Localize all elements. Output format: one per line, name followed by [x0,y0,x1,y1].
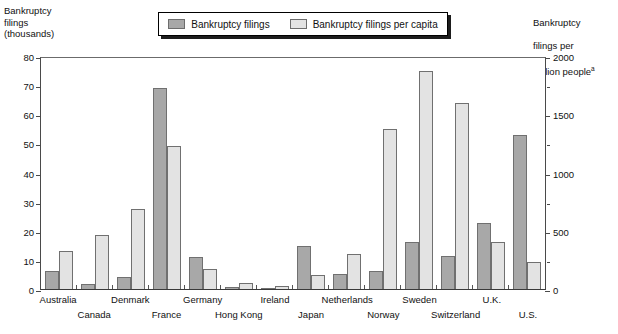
x-axis-label-denmark: Denmark [111,294,150,305]
bar-group [185,58,221,289]
bar-filings [153,88,167,289]
y-tick-right-minor [547,262,551,263]
bar-filings [261,288,275,289]
y-tick-right [545,116,550,117]
y-tick-left [36,175,41,176]
bar-per-capita [239,283,253,289]
x-axis-label-u-k: U.K. [483,294,501,305]
bar-filings [225,287,239,289]
y-tick-label-right: 0 [553,286,558,296]
bar-per-capita [203,269,217,289]
x-axis-label-norway: Norway [367,309,399,320]
bar-group [293,58,329,289]
y-tick-label-left: 50 [23,140,34,150]
bar-group [149,58,185,289]
x-axis-label-u-s: U.S. [519,309,537,320]
legend-item-filings: Bankruptcy filings [168,19,269,30]
bar-filings [405,242,419,289]
y-tick-label-left: 10 [23,257,34,267]
x-axis-label-switzerland: Switzerland [431,309,480,320]
y-tick-label-right: 1500 [553,111,574,121]
y-tick-right-minor [547,87,551,88]
x-axis-label-hong-kong: Hong Kong [215,309,263,320]
y-tick-label-left: 60 [23,111,34,121]
bar-filings [189,257,203,289]
chart-legend: Bankruptcy filings Bankruptcy filings pe… [158,12,448,36]
y-tick-label-left: 70 [23,82,34,92]
bar-per-capita [59,251,73,289]
bar-group [41,58,77,289]
y-tick-left [36,58,41,59]
y-axis-right-label-line1: Bankruptcy [533,17,581,28]
y-tick-label-left: 80 [23,53,34,63]
y-tick-right [545,233,550,234]
bar-filings [297,246,311,289]
legend-item-per-capita: Bankruptcy filings per capita [290,19,438,30]
y-tick-right [545,175,550,176]
bankruptcy-bar-chart: Bankruptcy filings (thousands) Bankruptc… [0,0,618,334]
y-axis-left-label: Bankruptcy filings (thousands) [4,5,54,40]
y-tick-label-left: 20 [23,228,34,238]
bar-per-capita [275,286,289,289]
y-tick-right [545,58,550,59]
bar-per-capita [455,103,469,289]
y-tick-left [36,262,41,263]
bar-filings [369,271,383,289]
bar-per-capita [527,262,541,289]
legend-swatch-per-capita [290,19,307,29]
x-axis-label-australia: Australia [40,294,77,305]
bar-group [221,58,257,289]
y-tick-left [36,116,41,117]
bar-group [329,58,365,289]
bar-filings [333,274,347,289]
y-tick-label-left: 0 [29,286,34,296]
legend-label-filings: Bankruptcy filings [191,19,269,30]
bar-per-capita [311,275,325,289]
y-tick-left [36,87,41,88]
y-tick-label-right: 1000 [553,170,574,180]
y-tick-left [36,145,41,146]
bars-layer [41,58,545,289]
bar-group [437,58,473,289]
legend-swatch-filings [168,19,185,29]
y-axis-right-label-line2: filings per [533,40,574,51]
bar-filings [477,223,491,289]
bar-group [401,58,437,289]
x-axis-label-canada: Canada [78,309,111,320]
y-tick-label-left: 30 [23,199,34,209]
bar-filings [45,271,59,289]
y-tick-left [36,204,41,205]
bar-filings [117,277,131,289]
bar-group [113,58,149,289]
bar-filings [81,284,95,289]
y-tick-right-minor [547,204,551,205]
bar-group [77,58,113,289]
bar-per-capita [383,129,397,289]
bar-per-capita [419,71,433,289]
bar-group [473,58,509,289]
x-axis-category-labels: AustraliaCanadaDenmarkFranceGermanyHong … [40,292,546,332]
y-tick-label-right: 2000 [553,53,574,63]
bar-per-capita [347,254,361,289]
x-axis-label-sweden: Sweden [402,294,436,305]
bar-per-capita [491,242,505,289]
bar-filings [441,256,455,289]
bar-group [365,58,401,289]
bar-group [509,58,545,289]
bar-per-capita [167,146,181,289]
x-axis-label-france: France [152,309,182,320]
bar-per-capita [95,235,109,289]
bar-group [257,58,293,289]
y-tick-label-left: 40 [23,170,34,180]
x-axis-label-germany: Germany [183,294,222,305]
x-axis-label-netherlands: Netherlands [322,294,373,305]
y-tick-label-right: 500 [553,228,569,238]
bar-filings [513,135,527,289]
plot-area: 01020304050607080 0500100015002000 [40,57,546,290]
legend-label-per-capita: Bankruptcy filings per capita [313,19,438,30]
y-tick-left [36,233,41,234]
bar-per-capita [131,209,145,289]
x-axis-label-japan: Japan [298,309,324,320]
x-axis-label-ireland: Ireland [260,294,289,305]
y-axis-right-footnote-marker: a [591,65,595,72]
